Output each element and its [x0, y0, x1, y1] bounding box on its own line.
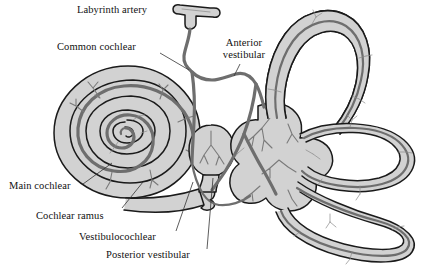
- inner-ear-blood-supply-diagram: .fill { fill: #d2d2d2; stroke: #1a1a1a; …: [0, 0, 428, 267]
- saccule-structure: [189, 125, 234, 192]
- label-cochlear-ramus: Cochlear ramus: [36, 210, 104, 222]
- label-anterior-vestibular-line2: vestibular: [223, 49, 265, 60]
- label-anterior-vestibular-line1: Anterior: [226, 37, 262, 48]
- label-labyrinth-artery: Labyrinth artery: [77, 4, 147, 16]
- label-main-cochlear: Main cochlear: [9, 180, 71, 192]
- label-posterior-vestibular: Posterior vestibular: [106, 249, 190, 261]
- label-vestibulocochlear: Vestibulocochlear: [79, 231, 156, 243]
- labyrinth-artery-vessel: [173, 5, 220, 29]
- label-anterior-vestibular: Anteriorvestibular: [210, 37, 278, 61]
- label-common-cochlear: Common cochlear: [57, 41, 136, 53]
- superior-semicircular-canal: [266, 10, 372, 134]
